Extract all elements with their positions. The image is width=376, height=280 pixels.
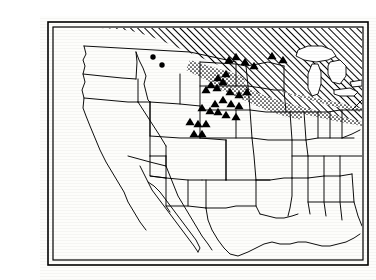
map-canvas xyxy=(40,16,376,280)
circle-marker-layer xyxy=(150,54,164,67)
distribution-map-figure: Black and white outline map of the Unite… xyxy=(40,16,376,280)
triangle-locality-marker xyxy=(213,108,222,115)
triangle-locality-marker xyxy=(231,113,240,120)
triangle-locality-marker xyxy=(234,102,243,109)
triangle-locality-marker xyxy=(189,130,198,137)
triangle-locality-marker xyxy=(221,111,230,118)
triangle-locality-marker xyxy=(193,120,202,127)
triangle-locality-marker xyxy=(185,118,194,125)
circle-locality-marker xyxy=(159,62,164,67)
triangle-locality-marker xyxy=(205,107,214,114)
triangle-locality-marker xyxy=(197,104,206,111)
triangle-locality-marker xyxy=(201,120,210,127)
triangle-locality-marker xyxy=(226,100,235,107)
triangle-locality-marker xyxy=(197,130,206,137)
triangle-locality-marker xyxy=(210,100,219,107)
circle-locality-marker xyxy=(150,54,155,59)
triangle-locality-marker xyxy=(218,96,227,103)
